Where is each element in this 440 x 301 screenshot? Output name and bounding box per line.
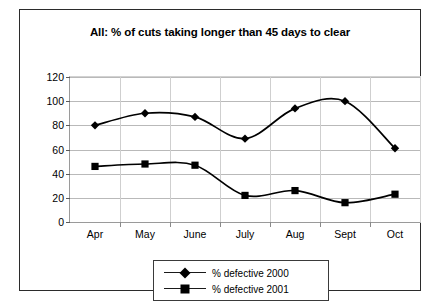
x-axis-tick-label: Sept (334, 228, 356, 240)
chart-frame: All: % of cuts taking longer than 45 day… (19, 9, 421, 291)
y-axis-tick-label: 20 (52, 192, 64, 204)
data-point-square-icon (341, 199, 348, 206)
data-point-square-icon (391, 191, 398, 198)
square-icon (164, 282, 206, 296)
data-point-square-icon (191, 162, 198, 169)
data-point-diamond-icon (191, 113, 199, 121)
x-axis-tick-mark (270, 222, 271, 227)
data-point-diamond-icon (341, 97, 349, 105)
series-1 (91, 97, 399, 153)
x-axis-tick-label: June (184, 228, 207, 240)
x-axis-tick-mark (220, 222, 221, 227)
x-axis-tick-label: Oct (387, 228, 403, 240)
x-axis-tick-label: Aug (286, 228, 305, 240)
x-axis-tick-mark (170, 222, 171, 227)
data-point-square-icon (91, 163, 98, 170)
legend-label-2001: % defective 2001 (212, 284, 289, 295)
y-axis-tick-label: 80 (52, 119, 64, 131)
series-2 (91, 160, 398, 206)
series-lines (70, 77, 420, 222)
y-axis-tick-label: 40 (52, 168, 64, 180)
data-point-diamond-icon (141, 109, 149, 117)
legend-item-2001: % defective 2001 (154, 281, 328, 297)
x-axis-tick-mark (120, 222, 121, 227)
x-axis-tick-label: Apr (87, 228, 103, 240)
x-axis-tick-mark (320, 222, 321, 227)
data-point-diamond-icon (241, 134, 249, 142)
y-axis-tick-label: 60 (52, 144, 64, 156)
chart-legend: % defective 2000 % defective 2001 (153, 260, 329, 301)
y-axis-tick-label: 100 (46, 95, 64, 107)
legend-item-2000: % defective 2000 (154, 265, 328, 281)
data-point-diamond-icon (291, 104, 299, 112)
chart-title: All: % of cuts taking longer than 45 day… (20, 26, 420, 38)
y-axis-tick-label: 0 (58, 216, 64, 228)
data-point-square-icon (141, 160, 148, 167)
data-point-square-icon (241, 192, 248, 199)
y-axis-tick-mark (66, 222, 70, 223)
x-axis-tick-mark (370, 222, 371, 227)
data-point-diamond-icon (91, 121, 99, 129)
data-point-square-icon (291, 187, 298, 194)
x-axis-tick-label: July (236, 228, 255, 240)
y-axis-tick-label: 120 (46, 71, 64, 83)
diamond-icon (164, 266, 206, 280)
x-axis-tick-label: May (135, 228, 155, 240)
plot-area: 020406080100120 AprMayJuneJulyAugSeptOct (69, 76, 421, 223)
legend-label-2000: % defective 2000 (212, 268, 289, 279)
